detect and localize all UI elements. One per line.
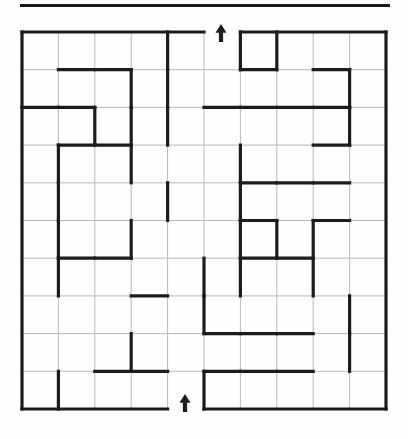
maze-exit-up-arrow-icon (180, 394, 191, 412)
maze-canvas (0, 0, 408, 439)
maze-arrows (180, 24, 227, 412)
maze-entrance-up-arrow-icon (216, 24, 227, 42)
maze-figure (0, 0, 408, 439)
maze-page (0, 0, 408, 439)
